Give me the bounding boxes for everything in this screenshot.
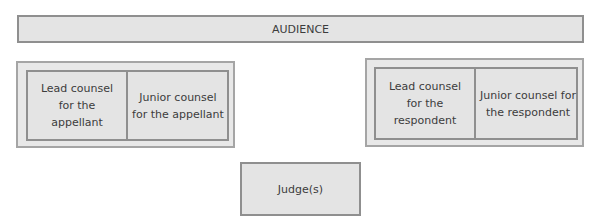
audience-label: AUDIENCE [272, 21, 329, 38]
junior-counsel-respondent: Junior counsel for the respondent [474, 69, 580, 138]
appellant-counsel-table: Lead counsel for the appellant Junior co… [26, 70, 229, 141]
lead-counsel-appellant: Lead counsel for the appellant [28, 72, 126, 139]
lead-counsel-respondent-label: Lead counsel for the respondent [380, 78, 470, 129]
judge-box: Judge(s) [240, 162, 361, 216]
audience-box: AUDIENCE [17, 15, 584, 43]
judge-label: Judge(s) [278, 181, 323, 198]
junior-counsel-respondent-label: Junior counsel for the respondent [480, 87, 576, 121]
lead-counsel-respondent: Lead counsel for the respondent [376, 69, 474, 138]
respondent-counsel-group: Lead counsel for the respondent Junior c… [365, 58, 584, 147]
appellant-counsel-group: Lead counsel for the appellant Junior co… [16, 61, 235, 148]
respondent-counsel-table: Lead counsel for the respondent Junior c… [374, 67, 578, 140]
lead-counsel-appellant-label: Lead counsel for the appellant [32, 80, 122, 131]
junior-counsel-appellant: Junior counsel for the appellant [126, 72, 228, 139]
junior-counsel-appellant-label: Junior counsel for the appellant [132, 89, 224, 123]
